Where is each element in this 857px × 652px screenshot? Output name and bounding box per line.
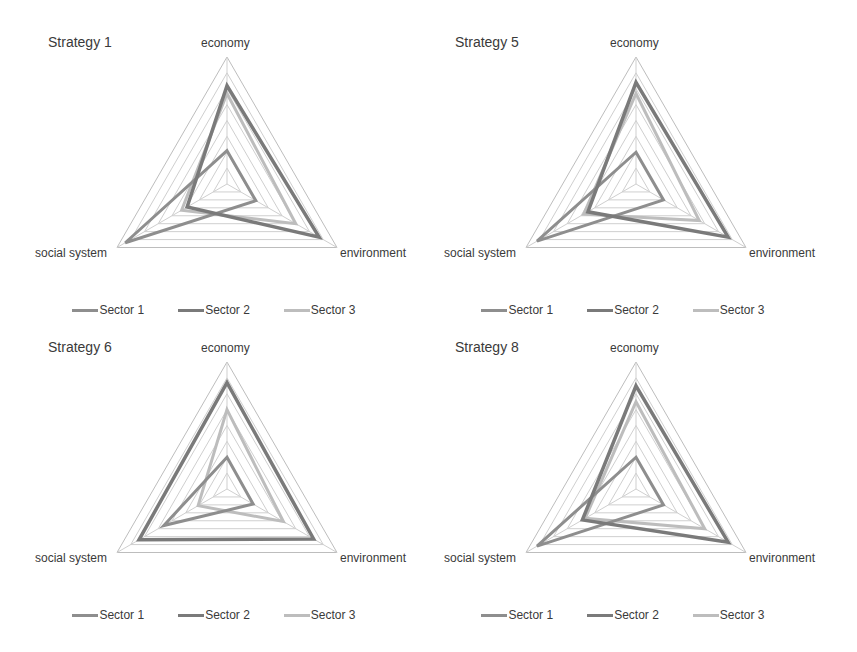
legend-label: Sector 2 bbox=[205, 608, 250, 622]
chart-panel-strategy-8: Strategy 8 economy social system environ… bbox=[409, 305, 837, 631]
axis-label-environment: environment bbox=[749, 246, 815, 260]
axis-label-environment: environment bbox=[340, 246, 406, 260]
axis-label-social-system: social system bbox=[444, 551, 516, 565]
axis-label-social-system: social system bbox=[35, 551, 107, 565]
axis-label-environment: environment bbox=[749, 551, 815, 565]
series-sector-3 bbox=[182, 94, 296, 224]
legend-item-sector-3: Sector 3 bbox=[284, 608, 356, 622]
legend-label: Sector 1 bbox=[508, 608, 553, 622]
axis-label-economy: economy bbox=[610, 36, 659, 50]
legend-item-sector-1: Sector 1 bbox=[72, 608, 144, 622]
chart-panel-strategy-5: Strategy 5 economy social system environ… bbox=[409, 0, 837, 326]
legend-item-sector-2: Sector 2 bbox=[178, 608, 250, 622]
chart-title: Strategy 8 bbox=[455, 339, 519, 355]
axis-label-social-system: social system bbox=[444, 246, 516, 260]
legend-swatch-icon bbox=[284, 614, 310, 617]
axis-label-economy: economy bbox=[610, 341, 659, 355]
chart-title: Strategy 1 bbox=[48, 34, 112, 50]
axis-label-economy: economy bbox=[201, 341, 250, 355]
chart-panel-strategy-6: Strategy 6 economy social system environ… bbox=[0, 305, 428, 631]
legend-label: Sector 3 bbox=[720, 608, 765, 622]
chart-legend: Sector 1 Sector 2 Sector 3 bbox=[0, 608, 428, 622]
chart-title: Strategy 6 bbox=[48, 339, 112, 355]
legend-swatch-icon bbox=[178, 614, 204, 617]
legend-item-sector-3: Sector 3 bbox=[693, 608, 765, 622]
series-sector-2 bbox=[588, 82, 728, 237]
chart-panel-strategy-1: Strategy 1 economy social system environ… bbox=[0, 0, 428, 326]
legend-swatch-icon bbox=[481, 614, 507, 617]
legend-swatch-icon bbox=[587, 614, 613, 617]
axis-label-social-system: social system bbox=[35, 246, 107, 260]
chart-title: Strategy 5 bbox=[455, 34, 519, 50]
legend-item-sector-2: Sector 2 bbox=[587, 608, 659, 622]
legend-label: Sector 2 bbox=[614, 608, 659, 622]
axis-label-economy: economy bbox=[201, 36, 250, 50]
legend-swatch-icon bbox=[693, 614, 719, 617]
legend-label: Sector 3 bbox=[311, 608, 356, 622]
legend-label: Sector 1 bbox=[99, 608, 144, 622]
chart-legend: Sector 1 Sector 2 Sector 3 bbox=[409, 608, 837, 622]
legend-item-sector-1: Sector 1 bbox=[481, 608, 553, 622]
legend-swatch-icon bbox=[72, 614, 98, 617]
axis-label-environment: environment bbox=[340, 551, 406, 565]
